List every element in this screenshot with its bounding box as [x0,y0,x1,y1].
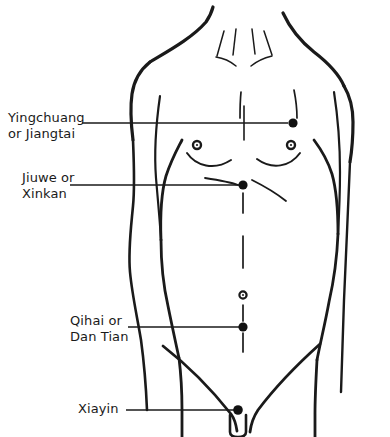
left-torso-upper-line [161,140,182,240]
xiayin-point [233,405,243,415]
acupoint-diagram: Yingchuangor Jiangtai Jiuwe orXinkan Qih… [0,0,390,437]
label-jiuwe: Jiuwe orXinkan [22,170,75,201]
right-torso-waist-line [317,234,338,360]
yingchuang-point [288,118,297,127]
sternal-notch-lines [216,29,272,66]
qihai-point [238,322,247,331]
pectoral-curves [187,153,300,166]
label-qihai: Qihai orDan Tian [70,313,129,344]
left-inguinal-crease-line [163,346,237,431]
left-torso-waist-line [161,240,179,358]
left-hip-thigh-line [179,358,182,437]
right-deltoid-line [344,86,353,162]
left-arm-outer-line [129,140,147,410]
right-nipple [287,141,295,149]
neck-side-lines [240,90,297,118]
label-qihai-line2: Dan Tian [70,329,129,344]
navel [239,291,246,298]
label-yingchuang: Yingchuangor Jiangtai [8,110,85,141]
right-trapezius-line [283,13,344,86]
label-xiayin-line1: Xiayin [78,401,119,416]
left-nipple [193,141,201,149]
label-xiayin: Xiayin [78,401,119,417]
jiuwe-point [238,180,247,189]
right-arm-outer-line [341,162,350,392]
label-qihai-line1: Qihai or [70,313,122,328]
right-torso-upper-line [314,140,338,234]
right-hip-thigh-line [315,360,317,437]
left-trapezius-line [150,7,213,62]
torso-figure [0,0,390,437]
label-jiuwe-line1: Jiuwe or [22,170,75,185]
left-deltoid-line [131,62,150,140]
label-yingchuang-line2: or Jiangtai [8,126,75,141]
label-yingchuang-line1: Yingchuang [8,110,85,125]
right-inguinal-crease-line [250,344,320,432]
label-jiuwe-line2: Xinkan [22,186,67,201]
